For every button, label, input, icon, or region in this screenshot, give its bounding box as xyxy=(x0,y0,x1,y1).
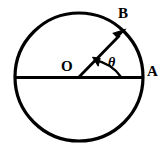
radius-vector-arrowhead xyxy=(113,30,125,38)
geometry-figure: B O θ A xyxy=(0,0,167,153)
label-point-b: B xyxy=(118,6,128,21)
label-point-a: A xyxy=(147,64,158,79)
label-angle-theta: θ xyxy=(108,56,115,70)
label-center-o: O xyxy=(61,59,73,74)
circle-diagram-canvas xyxy=(0,0,167,153)
